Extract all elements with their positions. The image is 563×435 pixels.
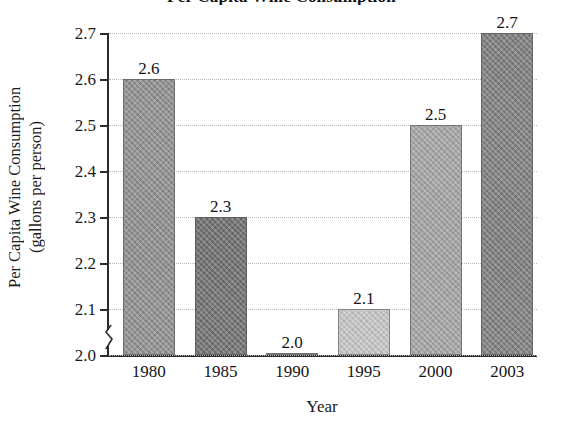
bar-value-label: 2.0 — [282, 334, 303, 351]
bar-value-label: 2.7 — [497, 14, 518, 31]
y-tick-mark — [100, 171, 109, 173]
y-tick-mark — [100, 33, 109, 35]
y-tick-label: 2.3 — [75, 209, 96, 226]
y-tick-label: 2.2 — [75, 255, 96, 272]
bar[interactable]: 2.01990 — [266, 353, 318, 355]
chart-figure: Per Capita Wine Consumption Per Capita W… — [0, 0, 563, 435]
y-tick-mark — [100, 217, 109, 219]
y-tick-label: 2.5 — [75, 117, 96, 134]
bar[interactable]: 2.72003 — [481, 33, 533, 355]
y-tick-label: 2.6 — [75, 71, 96, 88]
y-tick-label: 2.1 — [75, 301, 96, 318]
bar-value-label: 2.1 — [353, 290, 374, 307]
chart-title: Per Capita Wine Consumption — [0, 0, 563, 5]
bar[interactable]: 2.61980 — [123, 79, 175, 355]
bar[interactable]: 2.11995 — [338, 309, 390, 355]
bar-value-label: 2.3 — [210, 198, 231, 215]
y-axis-spine — [107, 33, 109, 330]
x-tick-label: 1980 — [132, 363, 166, 380]
y-axis-title-line-1: Per Capita Wine Consumption — [4, 22, 26, 352]
x-tick-label: 2003 — [490, 363, 524, 380]
bar-value-label: 2.6 — [138, 60, 159, 77]
gridline — [109, 355, 537, 356]
y-tick-mark — [100, 263, 109, 265]
y-tick-label: 2.4 — [75, 163, 96, 180]
bar[interactable]: 2.31985 — [195, 217, 247, 355]
x-tick-label: 1990 — [275, 363, 309, 380]
y-tick-mark — [100, 309, 109, 311]
y-tick-mark — [100, 355, 109, 357]
x-tick-label: 1995 — [347, 363, 381, 380]
y-tick-mark — [100, 79, 109, 81]
bar[interactable]: 2.52000 — [410, 125, 462, 355]
bar-value-label: 2.5 — [425, 106, 446, 123]
y-tick-label: 2.7 — [75, 25, 96, 42]
y-axis-title: Per Capita Wine Consumption (gallons per… — [4, 22, 48, 352]
y-tick-mark — [100, 125, 109, 127]
gridline — [109, 33, 537, 34]
y-axis-title-line-2: (gallons per person) — [25, 22, 47, 352]
plot-area: 2.02.12.22.32.42.52.62.7 2.619802.319852… — [107, 33, 537, 357]
axis-break-icon — [102, 325, 116, 349]
x-tick-label: 1985 — [204, 363, 238, 380]
x-tick-label: 2000 — [419, 363, 453, 380]
y-tick-label: 2.0 — [75, 347, 96, 364]
x-axis-title: Year — [107, 398, 537, 415]
